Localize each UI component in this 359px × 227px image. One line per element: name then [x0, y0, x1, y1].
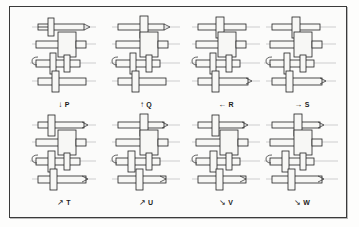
shaft-group-3 [264, 151, 338, 172]
assembly-drawing-q [106, 11, 186, 111]
shaft-group-4 [112, 169, 180, 190]
shaft-group-2 [112, 32, 180, 57]
panel-letter-u: U [148, 198, 153, 207]
shaft-group-4 [32, 71, 96, 92]
assembly-drawing-v [186, 109, 266, 209]
panel-label-u: ↗U [106, 197, 186, 207]
panel-letter-s: S [305, 100, 310, 109]
panel-v: ↘V [186, 109, 266, 209]
diagram-plate: ↓P [9, 6, 347, 218]
assembly-drawing-w [262, 109, 342, 209]
shaft-group-2 [32, 130, 96, 155]
panel-letter-p: P [65, 100, 70, 109]
direction-arrow-icon-p: ↓ [58, 100, 62, 109]
assembly-drawing-r [186, 11, 266, 111]
direction-arrow-icon-v: ↘ [219, 198, 226, 207]
assembly-drawing-t [24, 109, 104, 209]
shaft-group-2 [112, 130, 180, 155]
panel-label-v: ↘V [186, 197, 266, 207]
direction-arrow-icon-q: ↑ [140, 100, 144, 109]
assembly-drawing-s [262, 11, 342, 111]
assembly-drawing-p [24, 11, 104, 111]
panel-q: ↑Q [106, 11, 186, 111]
panel-letter-q: Q [146, 100, 152, 109]
panel-letter-w: W [303, 198, 310, 207]
panel-grid: ↓P [10, 7, 346, 217]
shaft-group-4 [266, 169, 338, 190]
shaft-group-2 [192, 32, 260, 57]
direction-arrow-icon-r: ← [218, 100, 226, 109]
panel-letter-v: V [228, 198, 233, 207]
figure-root: ↓P [0, 0, 359, 227]
shaft-group-4 [266, 71, 336, 92]
shaft-group-2 [266, 130, 338, 155]
panel-u: ↗U [106, 109, 186, 209]
panel-label-w: ↘W [262, 197, 342, 207]
direction-arrow-icon-u: ↗ [139, 198, 146, 207]
shaft-group-3 [264, 53, 336, 74]
panel-label-t: ↗T [24, 197, 104, 207]
direction-arrow-icon-t: ↗ [57, 198, 64, 207]
direction-arrow-icon-s: → [294, 100, 302, 109]
shaft-group-4 [32, 169, 96, 190]
shaft-group-2 [266, 32, 336, 57]
panel-r: ←R [186, 11, 266, 111]
panel-w: ↘W [262, 109, 342, 209]
panel-letter-t: T [66, 198, 71, 207]
panel-s: →S [262, 11, 342, 111]
shaft-group-2 [192, 130, 260, 155]
panel-t: ↗T [24, 109, 104, 209]
shaft-group-4 [112, 71, 180, 92]
panel-p: ↓P [24, 11, 104, 111]
shaft-group-2 [32, 32, 96, 57]
shaft-group-4 [192, 169, 260, 190]
panel-label-s: →S [262, 99, 342, 109]
shaft-group-4 [192, 71, 260, 92]
panel-label-p: ↓P [24, 99, 104, 109]
panel-label-q: ↑Q [106, 99, 186, 109]
panel-letter-r: R [228, 100, 233, 109]
assembly-drawing-u [106, 109, 186, 209]
direction-arrow-icon-w: ↘ [294, 198, 301, 207]
panel-label-r: ←R [186, 99, 266, 109]
